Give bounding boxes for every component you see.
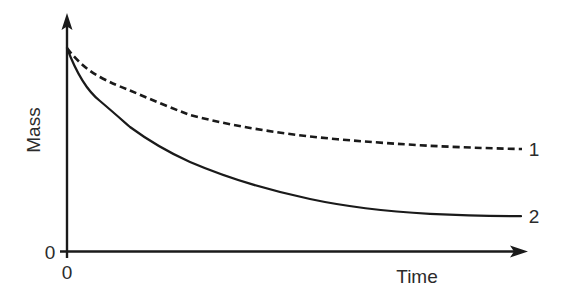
x-axis-origin-tick-label: 0: [62, 263, 73, 282]
series-1-label: 1: [529, 140, 540, 159]
series-1-curve: [67, 48, 522, 149]
chart-figure: Mass Time 0 0 1 2: [0, 0, 566, 305]
y-axis-origin-tick-label: 0: [45, 243, 56, 262]
x-axis-title: Time: [396, 267, 438, 286]
x-axis: [60, 246, 528, 258]
y-axis-title: Mass: [24, 107, 43, 152]
series-2-curve: [67, 48, 521, 216]
chart-plot-area: [0, 0, 566, 305]
series-2-label: 2: [529, 207, 540, 226]
